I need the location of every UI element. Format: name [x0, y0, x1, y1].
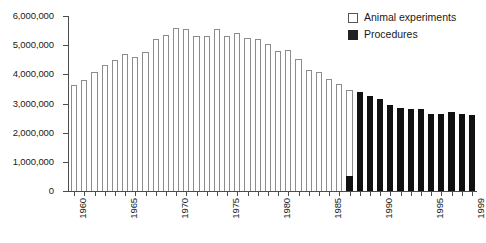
legend-label-procedures: Procedures [364, 29, 418, 40]
bar-1977-animal [244, 38, 250, 191]
x-tick-label: 1995 [435, 198, 445, 219]
y-axis: 01,000,0002,000,0003,000,0004,000,0005,0… [0, 0, 62, 243]
x-tick-mark [329, 192, 330, 196]
y-tick-label: 5,000,000 [13, 40, 54, 50]
x-tick-mark [411, 192, 412, 196]
bar-1979-animal [265, 44, 271, 191]
x-tick-mark [84, 192, 85, 196]
y-tick-label: 0 [49, 186, 54, 196]
x-tick-mark [299, 192, 300, 196]
x-tick-mark [380, 192, 381, 196]
y-tick-label: 2,000,000 [13, 128, 54, 138]
y-tick-label: 1,000,000 [13, 157, 54, 167]
bar-1973-animal [204, 36, 210, 191]
bar-1988-proc [357, 92, 363, 191]
x-tick-mark [105, 192, 106, 196]
legend-swatch-black-square-icon [348, 30, 358, 40]
x-tick-mark [207, 192, 208, 196]
x-axis: 196019651970197519801985199019951999 [69, 192, 477, 243]
x-tick-label: 1980 [282, 198, 292, 219]
bar-1967-animal [142, 52, 148, 191]
x-tick-mark [452, 192, 453, 196]
bar-1968-animal [153, 39, 159, 191]
x-tick-mark [370, 192, 371, 196]
x-tick-mark [186, 192, 187, 196]
bar-1963-animal [102, 65, 108, 191]
x-tick-mark [278, 192, 279, 196]
bar-1976-animal [234, 33, 240, 191]
x-tick-mark [217, 192, 218, 196]
bar-1978-animal [255, 39, 261, 191]
bar-1990-proc [377, 99, 383, 191]
bar-1989-proc [367, 96, 373, 191]
bar-1970-animal [173, 28, 179, 191]
x-tick-label: 1985 [333, 198, 343, 219]
x-tick-mark [166, 192, 167, 196]
bar-1961-animal [81, 80, 87, 191]
bar-1982-animal [295, 59, 301, 191]
x-tick-mark [197, 192, 198, 196]
y-tick-label: 3,000,000 [13, 99, 54, 109]
bar-1975-animal [224, 36, 230, 191]
bar-1972-animal [193, 36, 199, 191]
x-tick-mark [350, 192, 351, 196]
bar-1996-proc [438, 114, 444, 191]
x-tick-mark [74, 192, 75, 196]
chart-legend: Animal experiments Procedures [348, 9, 456, 43]
x-tick-mark [125, 192, 126, 196]
bar-1991-proc [387, 105, 393, 191]
legend-label-animal-experiments: Animal experiments [364, 12, 456, 23]
bar-1974-animal [214, 29, 220, 191]
x-tick-mark [309, 192, 310, 196]
bar-1981-animal [285, 50, 291, 191]
x-tick-mark [421, 192, 422, 196]
x-tick-mark [462, 192, 463, 196]
x-tick-mark [176, 192, 177, 196]
legend-item-procedures: Procedures [348, 26, 456, 43]
x-tick-mark [227, 192, 228, 196]
x-tick-mark [258, 192, 259, 196]
x-tick-mark [146, 192, 147, 196]
bar-1999-proc [469, 115, 475, 191]
x-tick-label: 1975 [231, 198, 241, 219]
bar-1998-proc [459, 114, 465, 191]
x-tick-label: 1965 [129, 198, 139, 219]
bar-1969-animal [163, 35, 169, 191]
bar-1983-animal [306, 70, 312, 191]
x-tick-mark [390, 192, 391, 196]
x-tick-mark [431, 192, 432, 196]
bar-1997-proc [448, 112, 454, 191]
x-tick-mark [472, 192, 473, 196]
x-tick-label: 1999 [476, 198, 486, 219]
bar-1985-animal [326, 79, 332, 191]
bar-1992-proc [397, 108, 403, 191]
bar-1964-animal [112, 60, 118, 191]
bar-1995-proc [428, 114, 434, 191]
bar-1980-animal [275, 51, 281, 191]
x-tick-mark [248, 192, 249, 196]
bar-1986-animal [336, 84, 342, 191]
legend-swatch-white-square-icon [348, 13, 358, 23]
bar-1993-proc [408, 109, 414, 191]
x-tick-mark [401, 192, 402, 196]
bar-1962-animal [91, 72, 97, 191]
x-tick-mark [135, 192, 136, 196]
bar-1971-animal [183, 29, 189, 191]
x-tick-mark [156, 192, 157, 196]
bar-1984-animal [316, 72, 322, 191]
x-tick-mark [268, 192, 269, 196]
bar-1987-proc [346, 176, 352, 191]
y-tick-label: 4,000,000 [13, 69, 54, 79]
x-tick-mark [115, 192, 116, 196]
x-tick-mark [95, 192, 96, 196]
x-tick-label: 1970 [180, 198, 190, 219]
bar-1965-animal [122, 54, 128, 191]
legend-item-animal-experiments: Animal experiments [348, 9, 456, 26]
x-tick-label: 1990 [384, 198, 394, 219]
bar-1960-animal [71, 85, 77, 191]
x-tick-label: 1960 [78, 198, 88, 219]
x-tick-mark [319, 192, 320, 196]
x-tick-mark [441, 192, 442, 196]
y-tick-label: 6,000,000 [13, 11, 54, 21]
